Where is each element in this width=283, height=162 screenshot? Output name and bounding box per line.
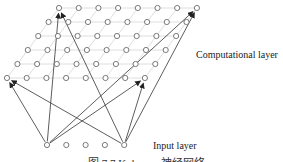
computational-node — [36, 33, 41, 38]
computational-node — [66, 19, 71, 24]
computational-node — [142, 75, 147, 80]
computational-node — [124, 47, 129, 52]
connection-arrow — [61, 13, 122, 142]
input-node — [102, 142, 107, 147]
input-node — [44, 142, 49, 147]
connection-arrows — [10, 12, 194, 143]
computational-node — [135, 5, 140, 10]
computational-node — [46, 19, 51, 24]
computational-node — [95, 33, 100, 38]
connection-arrow — [12, 81, 121, 143]
computational-node — [83, 75, 88, 80]
input-node — [122, 142, 127, 147]
computational-node — [4, 75, 9, 80]
connection-arrow — [126, 13, 194, 142]
computational-node — [55, 33, 60, 38]
computational-node — [184, 19, 189, 24]
computational-node — [123, 75, 128, 80]
computational-node — [113, 61, 118, 66]
computational-layer-nodes — [4, 5, 199, 80]
computational-node — [76, 5, 81, 10]
computational-node — [175, 5, 180, 10]
computational-node — [133, 61, 138, 66]
computational-node — [134, 33, 139, 38]
grid-column-line — [66, 8, 118, 78]
computational-node — [145, 19, 150, 24]
computational-node — [74, 61, 79, 66]
computational-node — [35, 61, 40, 66]
computational-node — [65, 47, 70, 52]
computational-node — [84, 47, 89, 52]
computational-layer-label: Computational layer — [196, 49, 278, 60]
grid-column-line — [46, 8, 98, 78]
connection-arrow — [50, 12, 193, 143]
computational-node — [194, 5, 199, 10]
computational-node — [45, 47, 50, 52]
computational-node — [164, 19, 169, 24]
grid-column-line — [7, 8, 59, 78]
computational-node — [24, 75, 29, 80]
grid-column-line — [27, 8, 79, 78]
grid-lines — [7, 8, 197, 78]
connection-arrow — [125, 83, 143, 141]
computational-node — [155, 5, 160, 10]
connection-arrow — [10, 83, 45, 142]
computational-node — [64, 75, 69, 80]
computational-node — [56, 5, 61, 10]
kohonen-network-diagram: Computational layer Input layer 图 7.7 Ko… — [0, 0, 283, 162]
computational-node — [54, 61, 59, 66]
grid-column-line — [145, 8, 197, 78]
computational-node — [44, 75, 49, 80]
connection-arrow — [50, 81, 140, 143]
computational-node — [163, 47, 168, 52]
computational-node — [125, 19, 130, 24]
computational-node — [103, 75, 108, 80]
grid-column-line — [125, 8, 177, 78]
computational-node — [85, 19, 90, 24]
input-node — [64, 142, 69, 147]
input-layer-label: Input layer — [153, 140, 197, 151]
computational-node — [114, 33, 119, 38]
computational-node — [154, 33, 159, 38]
computational-node — [25, 47, 30, 52]
computational-node — [116, 5, 121, 10]
computational-node — [105, 19, 110, 24]
grid-column-line — [86, 8, 138, 78]
input-node — [83, 142, 88, 147]
computational-node — [174, 33, 179, 38]
figure-caption: 图 7.7 Kohonen 神经网络 — [88, 154, 205, 162]
network-graphic — [0, 0, 283, 162]
computational-node — [94, 61, 99, 66]
computational-node — [143, 47, 148, 52]
computational-node — [75, 33, 80, 38]
computational-node — [15, 61, 20, 66]
computational-node — [104, 47, 109, 52]
computational-node — [96, 5, 101, 10]
input-layer-nodes — [44, 142, 126, 147]
computational-node — [153, 61, 158, 66]
